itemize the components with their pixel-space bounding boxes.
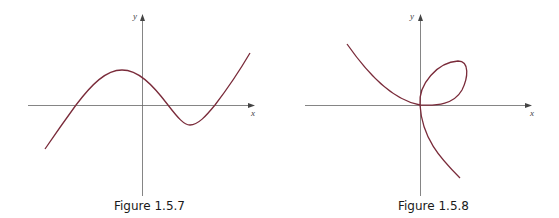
y-axis-label: y xyxy=(132,11,137,21)
y-axis-arrow-icon xyxy=(418,14,423,21)
figure-caption: Figure 1.5.7 xyxy=(114,199,185,213)
axes xyxy=(28,18,252,196)
parametric-curve xyxy=(347,44,467,178)
figure-1-5-7: x y Figure 1.5.7 xyxy=(0,0,280,218)
graph-1-5-8: x y xyxy=(280,0,559,218)
x-axis-label: x xyxy=(529,108,534,118)
graph-1-5-7: x y xyxy=(0,0,280,218)
x-axis-label: x xyxy=(250,108,255,118)
lower-branch xyxy=(420,105,460,178)
y-axis-arrow-icon xyxy=(140,14,145,21)
figure-1-5-8: x y Figure 1.5.8 xyxy=(280,0,559,218)
loop xyxy=(420,61,467,105)
figure-caption: Figure 1.5.8 xyxy=(398,199,469,213)
y-axis-label: y xyxy=(409,11,414,21)
function-curve xyxy=(45,53,250,149)
axes xyxy=(305,18,529,196)
left-branch xyxy=(347,44,420,105)
